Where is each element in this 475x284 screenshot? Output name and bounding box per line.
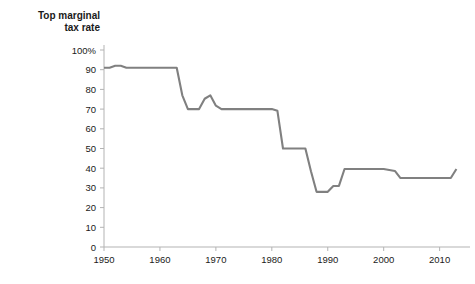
x-axis-ticks: 1950196019701980199020002010 <box>93 247 450 265</box>
x-tick-label: 2010 <box>429 254 450 265</box>
x-tick-label: 1970 <box>205 254 226 265</box>
y-axis-ticks: 0102030405060708090100% <box>72 45 104 253</box>
chart-container: Top marginal tax rate 010203040506070809… <box>0 0 475 284</box>
data-series-line <box>104 66 456 192</box>
y-tick-label: 70 <box>85 104 96 115</box>
y-tick-label: 10 <box>85 222 96 233</box>
y-tick-label: 0 <box>91 242 96 253</box>
x-tick-label: 1980 <box>261 254 282 265</box>
y-tick-label: 90 <box>85 64 96 75</box>
y-tick-label: 40 <box>85 163 96 174</box>
y-tick-label: 60 <box>85 123 96 134</box>
y-tick-label: 100% <box>72 45 97 56</box>
line-chart-plot: 0102030405060708090100% 1950196019701980… <box>0 0 475 284</box>
y-tick-label: 50 <box>85 143 96 154</box>
x-tick-label: 1950 <box>93 254 114 265</box>
y-tick-label: 20 <box>85 202 96 213</box>
y-tick-label: 30 <box>85 182 96 193</box>
y-tick-label: 80 <box>85 84 96 95</box>
x-tick-label: 1990 <box>317 254 338 265</box>
x-tick-label: 1960 <box>149 254 170 265</box>
x-tick-label: 2000 <box>373 254 394 265</box>
